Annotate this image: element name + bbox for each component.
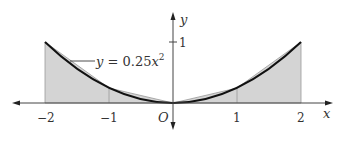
y-axis-label: y <box>179 12 188 27</box>
y-axis-up-arrow-icon <box>171 12 176 20</box>
function-label: y = 0.25x2 <box>95 52 165 69</box>
x-tick-label-1: 1 <box>233 111 241 125</box>
x-tick-label-neg1: −1 <box>100 111 118 125</box>
trapezoid-rule-diagram: y = 0.25x2 y 1 x O −2 −1 1 2 <box>0 0 341 142</box>
origin-label: O <box>158 110 169 125</box>
y-axis-down-arrow-icon <box>171 122 176 130</box>
x-tick-label-neg2: −2 <box>37 111 55 125</box>
x-axis-right-arrow-icon <box>325 101 333 106</box>
x-axis-left-arrow-icon <box>12 101 20 106</box>
x-axis-label: x <box>323 106 331 121</box>
x-tick-label-2: 2 <box>297 111 305 125</box>
y-tick-label-1: 1 <box>179 36 187 50</box>
